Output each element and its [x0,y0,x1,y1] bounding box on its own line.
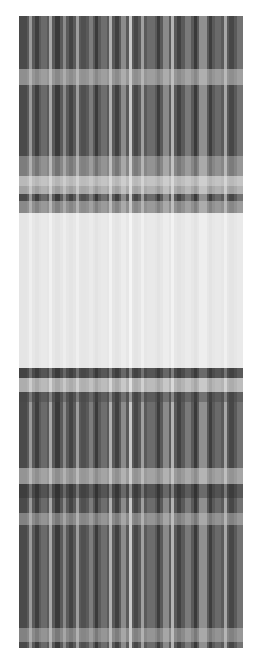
horizontal-band [19,69,243,85]
horizontal-band [19,201,243,213]
horizontal-band [19,392,243,402]
horizontal-band [19,368,243,378]
horizontal-band [19,513,243,525]
horizontal-band [19,176,243,194]
plaid-texture-image [19,16,243,648]
horizontal-band [19,628,243,642]
horizontal-band [19,378,243,392]
horizontal-band [19,484,243,498]
horizontal-band [19,468,243,484]
horizontal-band [19,213,243,368]
